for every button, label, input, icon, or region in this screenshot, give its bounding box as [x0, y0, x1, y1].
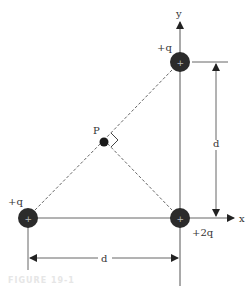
- point-p: [100, 138, 109, 147]
- charge-origin-label: +2q: [192, 227, 214, 238]
- point-p-label: P: [93, 125, 100, 136]
- dashed-line-left-to-p: [35, 140, 104, 210]
- charge-top: +: [170, 52, 190, 72]
- charge-left-label: +q: [8, 196, 23, 207]
- charge-left: +: [18, 208, 38, 228]
- vertical-dimension: [192, 62, 228, 216]
- figure-caption: FIGURE 19-1: [8, 276, 75, 285]
- charge-top-label: +q: [157, 42, 172, 53]
- dashed-line-top-to-p: [104, 70, 172, 140]
- charge-diagram: y x P d d + +q + +q + +2q FIGUR: [0, 0, 250, 286]
- plus-icon: +: [25, 214, 33, 224]
- charge-origin: +: [170, 208, 190, 228]
- y-axis-label: y: [175, 8, 182, 19]
- horizontal-dimension-label: d: [101, 253, 108, 264]
- right-angle-marker: [111, 133, 118, 147]
- plus-icon: +: [177, 214, 185, 224]
- dashed-line-p-to-origin: [104, 140, 172, 210]
- x-axis-label: x: [239, 213, 245, 224]
- vertical-dimension-label: d: [213, 138, 220, 149]
- plus-icon: +: [177, 58, 185, 68]
